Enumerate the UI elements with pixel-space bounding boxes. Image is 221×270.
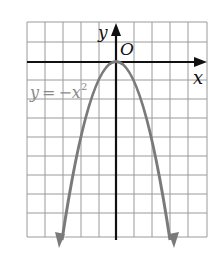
y-axis-arrow-icon [111,23,121,36]
x-axis-arrow-icon [194,57,207,67]
y-axis-label: y [97,22,108,42]
right-arrow-icon [169,232,179,248]
equation-label: y=−x2 [29,81,87,102]
x-axis-label: x [193,67,203,88]
origin-label: O [120,39,134,59]
parabola-graph: y O x y=−x2 [0,0,221,270]
